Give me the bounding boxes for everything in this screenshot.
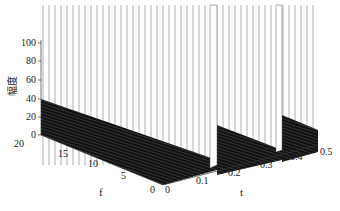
- f-axis-label: f: [99, 186, 103, 198]
- z-tick-80: 80: [26, 55, 36, 66]
- t-tick-0.5: 0.5: [320, 146, 333, 157]
- t-tick-0.3: 0.3: [260, 159, 273, 170]
- z-tick-100: 100: [21, 37, 36, 48]
- f-tick-20: 20: [14, 138, 24, 149]
- f-tick-10: 10: [88, 158, 98, 169]
- t-tick-0.4: 0.4: [290, 151, 303, 162]
- f-tick-5: 5: [121, 170, 126, 181]
- z-axis-label: 幅度: [6, 76, 18, 96]
- z-tick-20: 20: [26, 111, 36, 122]
- z-tick-60: 60: [26, 74, 36, 85]
- t-tick-0: 0: [165, 184, 170, 195]
- z-tick-0: 0: [31, 129, 36, 140]
- waterfall-3d-chart: 0 20 40 60 80 100 幅度 20 15 10 5 0 f 0 0.…: [0, 0, 340, 211]
- t-tick-0.1: 0.1: [196, 175, 209, 186]
- t-tick-0.2: 0.2: [228, 167, 241, 178]
- z-axis: 0 20 40 60 80 100 幅度: [6, 37, 41, 140]
- surface-mesh: [41, 5, 318, 185]
- z-tick-40: 40: [26, 93, 36, 104]
- f-tick-0: 0: [150, 184, 155, 195]
- t-axis-label: t: [240, 186, 243, 198]
- f-tick-15: 15: [58, 148, 68, 159]
